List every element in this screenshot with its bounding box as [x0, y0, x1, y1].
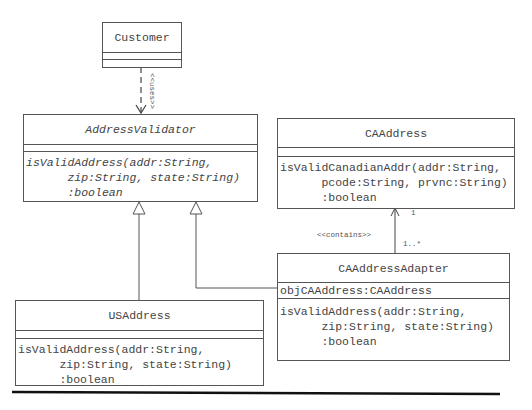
target-multiplicity: 1	[411, 209, 416, 217]
class-attributes	[16, 331, 263, 339]
class-operation: isValidAddress(addr:String, zip:String, …	[16, 339, 263, 387]
bottom-rule	[12, 392, 500, 394]
class-address-validator[interactable]: AddressValidator isValidAddress(addr:Str…	[23, 114, 258, 202]
source-multiplicity: 1..*	[403, 240, 421, 248]
class-operation: isValidAddress(addr:String, zip:String, …	[24, 152, 257, 200]
class-attributes	[278, 148, 514, 157]
adapter-generalization-triangle	[190, 202, 202, 214]
contains-label: <<contains>>	[317, 231, 371, 239]
class-customer[interactable]: Customer	[102, 22, 182, 68]
class-attributes	[24, 145, 257, 152]
class-name: USAddress	[16, 301, 263, 331]
class-operation: isValidAddress(addr:String, zip:String, …	[278, 299, 509, 349]
class-name: CAAddressAdapter	[278, 254, 509, 283]
class-name: AddressValidator	[24, 115, 257, 145]
class-ca-address[interactable]: CAAddress isValidCanadianAddr(addr:Strin…	[277, 118, 515, 209]
class-name: Customer	[103, 23, 181, 53]
class-name: CAAddress	[278, 119, 514, 148]
class-attributes	[103, 53, 181, 60]
uses-label: <<uses>>	[148, 73, 156, 109]
us-generalization-triangle	[133, 202, 145, 214]
class-attribute: objCAAddress:CAAddress	[278, 283, 509, 299]
class-us-address[interactable]: USAddress isValidAddress(addr:String, zi…	[15, 300, 264, 386]
class-operation: isValidCanadianAddr(addr:String, pcode:S…	[278, 157, 514, 205]
class-operations	[103, 60, 181, 67]
adapter-generalization-line	[196, 214, 277, 288]
class-ca-address-adapter[interactable]: CAAddressAdapter objCAAddress:CAAddress …	[277, 253, 510, 361]
